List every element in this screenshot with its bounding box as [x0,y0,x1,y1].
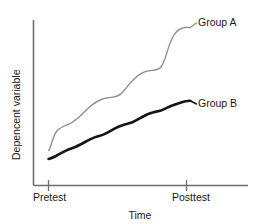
series-line-group-a [49,27,191,150]
series-label-group-a: Group A [198,16,237,28]
y-axis-label: Depencent variable [10,69,22,160]
line-chart: Depencent variable Time Pretest Posttest… [0,0,254,224]
group-a-leader-line [190,23,196,28]
group-b-leader-line [190,101,196,104]
x-axis-label: Time [129,209,152,221]
series-label-group-b: Group B [198,97,237,109]
series-line-group-b [49,101,191,159]
x-tick-label-pretest: Pretest [33,191,66,203]
x-tick-label-posttest: Posttest [172,191,210,203]
chart-figure: Depencent variable Time Pretest Posttest… [0,0,254,224]
